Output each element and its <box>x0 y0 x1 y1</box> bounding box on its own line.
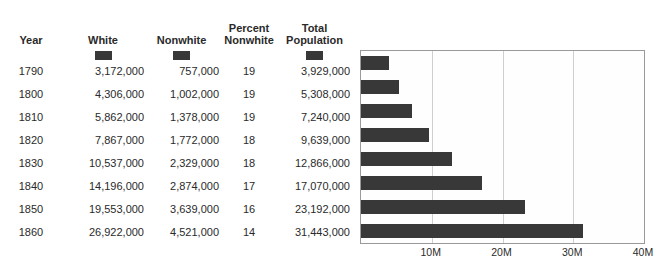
year: 1850 <box>0 198 62 221</box>
chart-bar-1820 <box>361 128 429 142</box>
table-row: 18105,862,0001,378,000197,240,000 <box>0 106 350 129</box>
cell-white: 3,172,000 <box>62 60 144 83</box>
year: 1820 <box>0 129 62 152</box>
cell-nonwhite: 3,639,000 <box>144 198 219 221</box>
year: 1790 <box>0 60 62 83</box>
column-header-white-label: White <box>88 34 118 46</box>
column-header-white: White <box>62 0 144 60</box>
table-row: 18004,306,0001,002,000195,308,000 <box>0 83 350 106</box>
chart-bar-1830 <box>361 152 452 166</box>
cell-percent-nonwhite: 18 <box>219 129 279 152</box>
cell-total-population: 23,192,000 <box>279 198 350 221</box>
cell-nonwhite: 1,378,000 <box>144 106 219 129</box>
x-tick-label: 20M <box>491 246 511 258</box>
column-header-total-population: Total Population <box>279 0 350 60</box>
cell-nonwhite: 757,000 <box>144 60 219 83</box>
chart-x-axis: 10M20M30M40M <box>360 246 645 262</box>
cell-nonwhite: 2,874,000 <box>144 175 219 198</box>
year: 1800 <box>0 83 62 106</box>
cell-nonwhite: 1,002,000 <box>144 83 219 106</box>
cell-nonwhite: 2,329,000 <box>144 152 219 175</box>
x-tick-label: 10M <box>421 246 441 258</box>
column-header-nonwhite: Nonwhite <box>144 0 219 60</box>
cell-total-population: 3,929,000 <box>279 60 350 83</box>
table-row: 18207,867,0001,772,000189,639,000 <box>0 129 350 152</box>
cell-total-population: 12,866,000 <box>279 152 350 175</box>
bar-fill <box>361 104 412 118</box>
population-table-panel: Year White Nonwhite <box>0 0 350 270</box>
cell-nonwhite: 1,772,000 <box>144 129 219 152</box>
cell-total-population: 17,070,000 <box>279 175 350 198</box>
chart-bar-1860 <box>361 224 583 238</box>
cell-white: 26,922,000 <box>62 221 144 244</box>
cell-total-population: 31,443,000 <box>279 221 350 244</box>
chart-bar-1800 <box>361 80 399 94</box>
x-tick-label: 30M <box>562 246 582 258</box>
chart-bar-1810 <box>361 104 412 118</box>
cell-white: 4,306,000 <box>62 83 144 106</box>
table-header-row: Year White Nonwhite <box>0 0 350 60</box>
cell-percent-nonwhite: 19 <box>219 60 279 83</box>
legend-swatch-white <box>95 51 112 60</box>
bar-fill <box>361 200 525 214</box>
table-row: 184014,196,0002,874,0001717,070,000 <box>0 175 350 198</box>
chart-plot-area <box>360 50 645 244</box>
column-header-total-population-label: Total Population <box>286 22 343 46</box>
cell-white: 5,862,000 <box>62 106 144 129</box>
year: 1860 <box>0 221 62 244</box>
table-row: 185019,553,0003,639,0001623,192,000 <box>0 198 350 221</box>
cell-white: 14,196,000 <box>62 175 144 198</box>
population-table-and-chart: Year White Nonwhite <box>0 0 658 270</box>
cell-total-population: 7,240,000 <box>279 106 350 129</box>
year: 1810 <box>0 106 62 129</box>
bar-fill <box>361 152 452 166</box>
column-header-percent-nonwhite: Percent Nonwhite <box>219 0 279 60</box>
table-row: 183010,537,0002,329,0001812,866,000 <box>0 152 350 175</box>
column-header-nonwhite-label: Nonwhite <box>157 34 207 46</box>
legend-swatch-nonwhite <box>173 51 190 60</box>
bar-fill <box>361 80 399 94</box>
bar-fill <box>361 224 583 238</box>
column-header-year: Year <box>0 0 62 60</box>
chart-bar-1850 <box>361 200 525 214</box>
cell-percent-nonwhite: 18 <box>219 152 279 175</box>
table-body: 17903,172,000757,000193,929,00018004,306… <box>0 60 350 244</box>
x-tick-label: 40M <box>633 246 653 258</box>
chart-bar-1840 <box>361 176 482 190</box>
cell-percent-nonwhite: 16 <box>219 198 279 221</box>
population-table: Year White Nonwhite <box>0 0 350 244</box>
cell-percent-nonwhite: 19 <box>219 83 279 106</box>
cell-total-population: 9,639,000 <box>279 129 350 152</box>
legend-swatch-total-population <box>306 51 323 60</box>
column-header-percent-nonwhite-label: Percent Nonwhite <box>224 22 274 46</box>
table-row: 17903,172,000757,000193,929,000 <box>0 60 350 83</box>
chart-bar-1790 <box>361 56 389 70</box>
cell-total-population: 5,308,000 <box>279 83 350 106</box>
cell-white: 10,537,000 <box>62 152 144 175</box>
bar-fill <box>361 128 429 142</box>
population-bar-chart-panel: 10M20M30M40M <box>352 0 658 270</box>
cell-white: 19,553,000 <box>62 198 144 221</box>
year: 1840 <box>0 175 62 198</box>
cell-percent-nonwhite: 17 <box>219 175 279 198</box>
column-header-year-label: Year <box>19 34 42 46</box>
bar-fill <box>361 176 482 190</box>
table-header: Year White Nonwhite <box>0 0 350 60</box>
table-row: 186026,922,0004,521,0001431,443,000 <box>0 221 350 244</box>
cell-percent-nonwhite: 19 <box>219 106 279 129</box>
bar-fill <box>361 56 389 70</box>
year: 1830 <box>0 152 62 175</box>
chart-bars <box>361 51 644 243</box>
cell-white: 7,867,000 <box>62 129 144 152</box>
cell-nonwhite: 4,521,000 <box>144 221 219 244</box>
cell-percent-nonwhite: 14 <box>219 221 279 244</box>
